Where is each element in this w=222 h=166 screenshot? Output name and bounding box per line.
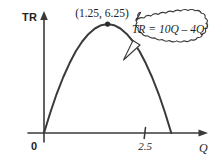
y-axis-label: TR xyxy=(22,11,37,23)
equation-exponent: 2 xyxy=(204,22,208,31)
tr-parabola-curve xyxy=(44,24,171,133)
equation-callout: TR = 10Q – 4Q2 xyxy=(124,9,209,60)
vertex-point-marker xyxy=(105,22,110,27)
vertex-coordinate-label: (1.25, 6.25) xyxy=(75,7,129,20)
equation-text: TR = 10Q – 4Q xyxy=(132,23,205,35)
x-axis-label: Q xyxy=(199,141,208,155)
chart-canvas: TR = 10Q – 4Q2 TR Q 0 2.5 (1.25, 6.25) xyxy=(0,0,222,166)
y-axis-arrow-icon xyxy=(40,11,48,20)
x-axis-tick-2point5 xyxy=(144,128,145,139)
origin-label: 0 xyxy=(31,140,37,152)
x-axis-tick-label: 2.5 xyxy=(138,140,152,152)
tr-curve-figure: TR = 10Q – 4Q2 TR Q 0 2.5 (1.25, 6.25) xyxy=(0,0,222,166)
x-axis-arrow-icon xyxy=(199,129,209,136)
equation-label: TR = 10Q – 4Q2 xyxy=(132,22,208,35)
tr-curve-group xyxy=(44,24,171,133)
callout-tail xyxy=(124,41,141,61)
